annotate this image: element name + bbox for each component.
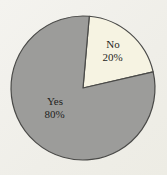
- pie-chart-figure: No 20% Yes 80%: [0, 0, 167, 175]
- no-slice-label: No: [106, 38, 120, 50]
- yes-slice-label: Yes: [47, 95, 63, 107]
- no-slice-value: 20%: [102, 51, 122, 63]
- pie-chart-canvas: No 20% Yes 80%: [0, 0, 167, 175]
- yes-slice-value: 80%: [44, 108, 64, 120]
